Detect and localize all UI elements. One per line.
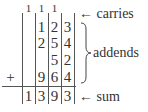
addend-digit: 4 [61,69,74,85]
sum-digit: 1 [22,88,35,104]
brace-icon [80,22,92,84]
addend-digit: 4 [61,35,74,51]
addend-digit: 5 [48,35,61,51]
sum-digit: 3 [35,88,48,104]
addends-label: addends [93,45,139,61]
addend-digit: 3 [61,19,74,35]
addend-digit: 2 [35,35,48,51]
addend-digit: 5 [48,52,61,68]
carries-label: ← carries [79,6,134,22]
addend-digit: 9 [35,69,48,85]
sum-digit: 9 [48,88,61,104]
sum-digit: 3 [61,88,74,104]
addend-digit: 2 [48,19,61,35]
sum-line [2,86,76,87]
addend-digit: 2 [61,52,74,68]
carry-digit: 1 [48,2,61,14]
carry-digit: 1 [22,2,35,14]
plus-sign: + [4,69,17,85]
sum-label: ← sum [79,89,120,105]
addend-digit: 6 [48,69,61,85]
carry-digit: 1 [35,2,48,14]
column-line [74,13,75,104]
addend-digit: 1 [35,19,48,35]
